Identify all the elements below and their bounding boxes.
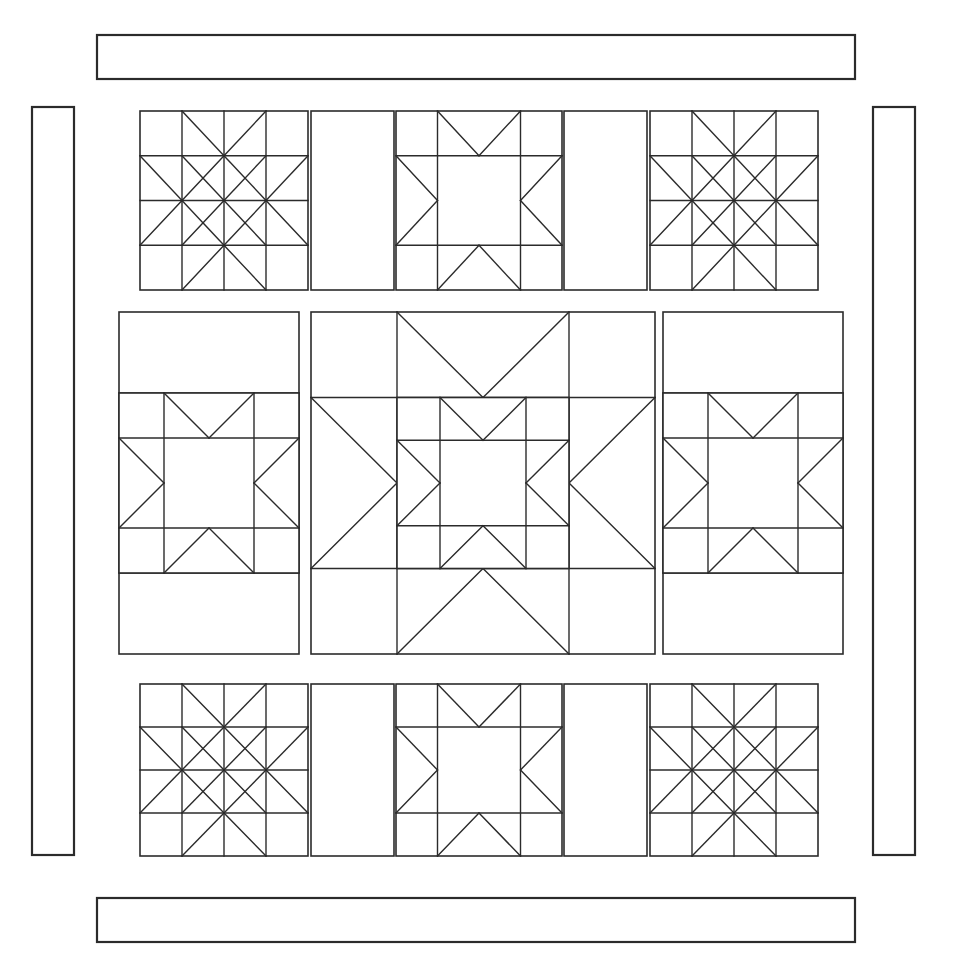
- block-middle-left-star-outline: [119, 393, 299, 573]
- block-bottom-left: [140, 684, 308, 856]
- block-bottom-center: [396, 684, 562, 856]
- block-bottom-right: [650, 684, 818, 856]
- bottom-border-strip: [97, 898, 855, 942]
- sashing-bottom-right: [564, 684, 647, 856]
- sashing-top-right: [564, 111, 647, 290]
- block-middle-right: [663, 312, 843, 654]
- block-middle-right-star-outline: [663, 393, 843, 573]
- sashing-top-left: [311, 111, 394, 290]
- sashing-top-left: [311, 111, 394, 290]
- block-top-center-outline: [396, 111, 562, 290]
- quilt-blocks: [119, 111, 843, 856]
- top-border-strip: [97, 35, 855, 79]
- block-middle-center-inner-outline: [397, 398, 569, 569]
- sashing-top-right: [564, 111, 647, 290]
- block-top-left: [140, 111, 308, 290]
- right-border-strip: [873, 107, 915, 855]
- sashing-bottom-right: [564, 684, 647, 856]
- block-middle-center: [311, 312, 655, 654]
- block-bottom-center-outline: [396, 684, 562, 856]
- block-top-right: [650, 111, 818, 290]
- quilt-diagram: [0, 0, 962, 959]
- sashing-bottom-left: [311, 684, 394, 856]
- block-top-center: [396, 111, 562, 290]
- sashing-bottom-left: [311, 684, 394, 856]
- left-border-strip: [32, 107, 74, 855]
- block-middle-left: [119, 312, 299, 654]
